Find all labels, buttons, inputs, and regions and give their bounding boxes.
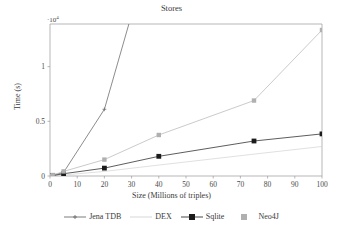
data-point-marker [252, 98, 256, 102]
x-tick-label-10: 100 [310, 180, 334, 189]
y-axis-multiplier: ·104 [47, 15, 59, 24]
data-point-marker [102, 157, 106, 161]
y-axis-multiplier-base: ·10 [47, 16, 56, 24]
legend-marker-neo4j-icon [233, 213, 255, 221]
x-tick-label-0: 0 [38, 180, 62, 189]
legend-marker-dex-icon [130, 213, 152, 221]
y-tick-label-1: 0.5 [21, 117, 45, 126]
legend-label: Jena TDB [89, 213, 121, 221]
chart-canvas [0, 0, 343, 237]
data-point-marker [61, 169, 65, 173]
x-tick-label-7: 70 [228, 180, 252, 189]
series-line [50, 24, 129, 176]
data-point-marker [51, 173, 55, 177]
x-tick-label-8: 80 [256, 180, 280, 189]
tick-marks [48, 67, 323, 179]
series-dex [50, 146, 322, 176]
data-series-group [48, 24, 325, 178]
series-line [50, 146, 322, 176]
data-point-marker [320, 131, 325, 136]
series-line [50, 134, 322, 176]
y-tick-label-2: 1 [21, 62, 45, 71]
data-point-marker [156, 154, 161, 159]
legend-item-dex[interactable]: DEX [130, 213, 171, 221]
series-jena-tdb [48, 24, 129, 178]
legend-item-neo4j[interactable]: Neo4J [233, 213, 278, 221]
x-tick-label-1: 10 [65, 180, 89, 189]
legend-item-jena-tdb[interactable]: Jena TDB [64, 213, 121, 221]
series-neo4j [48, 28, 324, 178]
x-tick-label-3: 30 [120, 180, 144, 189]
x-tick-label-9: 90 [283, 180, 307, 189]
chart-title: Stores [0, 3, 343, 13]
legend-label: DEX [155, 213, 171, 221]
legend-item-sqlite[interactable]: Sqlite [181, 213, 225, 221]
data-point-marker [252, 139, 257, 144]
legend-marker-jena-tdb-icon [64, 213, 86, 221]
legend-label: Neo4J [258, 213, 278, 221]
x-tick-label-4: 40 [147, 180, 171, 189]
plot-axes [50, 24, 322, 176]
data-point-marker [320, 28, 324, 32]
chart-legend: Jena TDBDEXSqliteNeo4J [0, 213, 343, 221]
series-sqlite [48, 131, 325, 178]
x-tick-label-2: 20 [92, 180, 116, 189]
legend-label: Sqlite [206, 213, 225, 221]
plot-frame [50, 24, 322, 176]
y-axis-multiplier-exponent: 4 [56, 15, 59, 20]
x-tick-label-6: 60 [201, 180, 225, 189]
x-axis-label: Size (Millions of triples) [0, 191, 343, 200]
data-point-marker [157, 133, 161, 137]
series-line [50, 30, 322, 176]
x-tick-label-5: 50 [174, 180, 198, 189]
data-point-marker [102, 166, 107, 171]
legend-marker-sqlite-icon [181, 213, 203, 221]
